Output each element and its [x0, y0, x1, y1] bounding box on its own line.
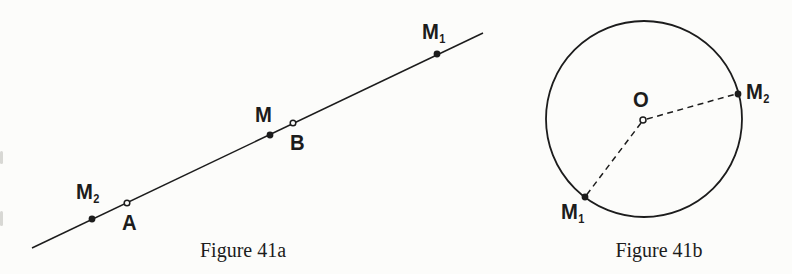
label-m1-fig41a: M1: [422, 20, 445, 47]
label-b-fig41a-main: B: [290, 130, 304, 155]
label-m-fig41a-main: M: [255, 102, 271, 127]
point-m2-dot: [89, 216, 96, 223]
label-m2-fig41b-main: M: [746, 79, 762, 104]
point-m-dot: [267, 132, 274, 139]
line-through-points: [32, 33, 483, 248]
label-a-fig41a: A: [122, 211, 136, 234]
center-o-open-marker: [640, 117, 646, 123]
fig41b-caption: Figure 41b: [579, 239, 739, 261]
label-m2-fig41a: M2: [76, 180, 99, 207]
label-m1-fig41b: M1: [561, 200, 584, 227]
label-a-fig41a-main: A: [122, 210, 136, 235]
label-m2-fig41b-sub: 2: [763, 92, 769, 106]
label-o-fig41b: O: [633, 88, 648, 111]
fig41b-diagram: [546, 21, 742, 217]
label-m1-fig41b-sub: 1: [578, 212, 584, 226]
radius-o-m2-dashed: [647, 94, 736, 119]
scanned-figure-page: M2 A M B M1 O M2 M1 Figure 41a Figure 41…: [0, 0, 792, 274]
label-m2-fig41a-main: M: [76, 179, 92, 204]
label-m1-fig41a-main: M: [422, 19, 438, 44]
point-b-open-marker: [290, 120, 296, 126]
radius-o-m1-dashed: [585, 123, 641, 197]
fig41a-diagram: [32, 33, 483, 248]
scan-artifact: [0, 211, 3, 226]
label-m2-fig41b: M2: [746, 80, 769, 107]
point-m2-circle-dot: [735, 91, 742, 98]
label-m1-fig41b-main: M: [561, 199, 577, 224]
fig41a-caption: Figure 41a: [163, 239, 323, 261]
point-a-open-marker: [124, 200, 130, 206]
label-m2-fig41a-sub: 2: [93, 192, 99, 206]
label-o-fig41b-main: O: [633, 87, 648, 112]
label-m-fig41a: M: [255, 103, 271, 126]
figures-canvas: [0, 0, 792, 274]
label-m1-fig41a-sub: 1: [439, 32, 445, 46]
point-m1-dot: [434, 51, 441, 58]
label-b-fig41a: B: [290, 131, 304, 154]
scan-artifact: [0, 151, 3, 164]
